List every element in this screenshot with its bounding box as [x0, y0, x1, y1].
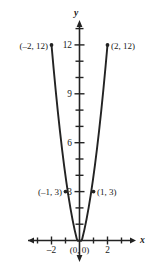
y-axis-bottom-arrowhead	[77, 255, 83, 262]
point-label-1-3: (1, 3)	[97, 187, 117, 197]
point-label-2-12: (2, 12)	[111, 41, 135, 51]
graph-canvas: y x 12 9 6 3 –2 2 (–2, 12) (2, 12) (–1, …	[0, 0, 154, 271]
point-label-neg1-3: (–1, 3)	[38, 187, 62, 197]
parabola-graph-figure: y x 12 9 6 3 –2 2 (–2, 12) (2, 12) (–1, …	[0, 0, 154, 271]
x-axis-left-arrowhead	[28, 238, 34, 244]
y-tick-label-12: 12	[63, 40, 73, 50]
x-axis-name: x	[139, 234, 145, 245]
y-axis-top-arrowhead	[77, 20, 83, 27]
y-tick-label-6: 6	[67, 138, 72, 148]
point-label-origin: (0, 0)	[70, 245, 90, 255]
marker-2-12	[106, 43, 110, 47]
marker-1-3	[92, 190, 96, 194]
x-axis-right-arrowhead	[130, 238, 136, 244]
y-axis-name: y	[73, 7, 79, 18]
x-tick-label-2: 2	[105, 245, 110, 255]
x-tick-label-neg2: –2	[46, 245, 57, 255]
point-label-neg2-12: (–2, 12)	[20, 41, 49, 51]
y-tick-label-3: 3	[67, 187, 72, 197]
y-tick-label-9: 9	[67, 89, 72, 99]
marker-neg2-12	[50, 43, 54, 47]
